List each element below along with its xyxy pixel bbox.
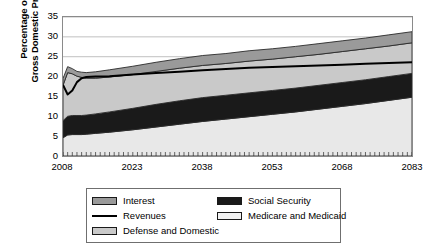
legend-item-defense-and-domestic[interactable]: Defense and Domestic <box>92 223 219 238</box>
legend: Interest Revenues Defense and Domestic S… <box>86 188 341 243</box>
y-tick-label-20: 20 <box>32 71 58 81</box>
x-tick-label-2083: 2083 <box>392 161 428 172</box>
plot-svg <box>63 17 412 156</box>
x-tick-label-2053: 2053 <box>252 161 292 172</box>
legend-swatch-social-security <box>217 197 242 205</box>
legend-label-medicare-and-medicaid: Medicare and Medicaid <box>248 210 346 221</box>
legend-column-left: Interest Revenues Defense and Domestic <box>92 193 219 238</box>
y-tick-label-5: 5 <box>32 131 58 141</box>
legend-item-revenues[interactable]: Revenues <box>92 208 219 223</box>
chart-container: Percentage of Gross Domestic Product 35 … <box>0 0 428 251</box>
y-tick-label-25: 25 <box>32 51 58 61</box>
legend-label-interest: Interest <box>123 195 155 206</box>
legend-label-defense-and-domestic: Defense and Domestic <box>123 225 219 236</box>
plot-area <box>62 16 413 157</box>
stacked-areas <box>63 32 412 156</box>
x-tick-label-2068: 2068 <box>322 161 362 172</box>
legend-item-interest[interactable]: Interest <box>92 193 219 208</box>
legend-swatch-defense-and-domestic <box>92 227 117 235</box>
y-tick-label-15: 15 <box>32 91 58 101</box>
y-tick-label-30: 30 <box>32 31 58 41</box>
y-tick-label-10: 10 <box>32 111 58 121</box>
legend-line-revenues <box>92 215 117 217</box>
y-tick-label-0: 0 <box>32 151 58 161</box>
legend-item-social-security[interactable]: Social Security <box>217 193 346 208</box>
y-axis-title-line-1: Percentage of <box>18 0 29 108</box>
legend-item-medicare-and-medicaid[interactable]: Medicare and Medicaid <box>217 208 346 223</box>
x-tick-label-2038: 2038 <box>182 161 222 172</box>
legend-swatch-interest <box>92 197 117 205</box>
legend-column-right: Social Security Medicare and Medicaid <box>217 193 346 223</box>
x-tick-label-2023: 2023 <box>112 161 152 172</box>
y-tick-label-35: 35 <box>32 11 58 21</box>
legend-label-revenues: Revenues <box>123 210 166 221</box>
legend-swatch-medicare-and-medicaid <box>217 212 242 220</box>
legend-label-social-security: Social Security <box>248 195 311 206</box>
x-tick-label-2008: 2008 <box>42 161 82 172</box>
